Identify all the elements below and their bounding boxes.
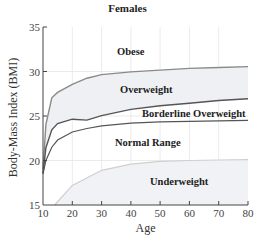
x-tick-60: 60 bbox=[184, 207, 196, 219]
region-label-underweight: Underweight bbox=[150, 176, 209, 187]
x-tick-10: 10 bbox=[38, 207, 50, 219]
region-label-obese: Obese bbox=[117, 46, 145, 57]
y-tick-35: 35 bbox=[29, 21, 41, 33]
overweight-band bbox=[43, 67, 248, 174]
bmi-chart: 15 20 25 30 35 10 20 30 40 50 60 70 80 O… bbox=[0, 0, 255, 237]
x-tick-30: 30 bbox=[96, 207, 108, 219]
y-tick-30: 30 bbox=[29, 66, 41, 78]
y-tick-25: 25 bbox=[29, 110, 41, 122]
region-label-normal: Normal Range bbox=[115, 137, 181, 148]
y-tick-20: 20 bbox=[29, 155, 41, 167]
x-tick-80: 80 bbox=[243, 207, 255, 219]
region-label-overweight: Overweight bbox=[120, 84, 173, 95]
x-tick-20: 20 bbox=[67, 207, 79, 219]
x-tick-70: 70 bbox=[213, 207, 225, 219]
x-tick-40: 40 bbox=[125, 207, 137, 219]
region-label-borderline: Borderline Overweight bbox=[142, 108, 246, 119]
x-tick-50: 50 bbox=[155, 207, 167, 219]
